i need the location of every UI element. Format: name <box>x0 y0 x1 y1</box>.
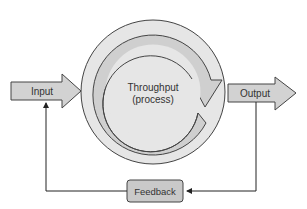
process-circle: Throughput (process) <box>81 20 225 179</box>
process-label-line2: (process) <box>132 94 174 105</box>
input-label: Input <box>31 86 53 97</box>
output-label: Output <box>240 88 270 99</box>
input-arrow: Input <box>11 74 81 108</box>
output-arrow: Output <box>228 77 296 110</box>
systems-diagram: Input Throughput (process) Output Feedba… <box>0 0 307 209</box>
process-label-line1: Throughput <box>127 82 178 93</box>
feedback-label: Feedback <box>134 186 176 197</box>
feedback-box: Feedback <box>127 180 183 202</box>
